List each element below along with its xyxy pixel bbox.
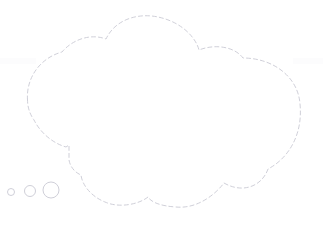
bubble-drawing — [0, 0, 323, 228]
tail-dot-medium — [25, 186, 36, 197]
tail-dot-large — [43, 182, 59, 198]
tail-dot-small — [8, 189, 15, 196]
thought-bubble-canvas — [0, 0, 323, 228]
thought-bubble-outline — [27, 16, 300, 207]
